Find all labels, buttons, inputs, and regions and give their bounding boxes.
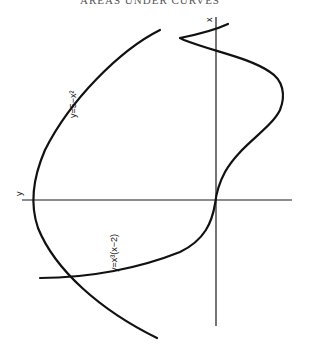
y-axis-label: y xyxy=(14,191,24,196)
graph: y x y=5−x² y=x³(x−2) xyxy=(0,0,309,357)
quartic-curve xyxy=(40,24,283,278)
quartic-label: y=x³(x−2) xyxy=(109,234,119,272)
parabola-label: y=5−x² xyxy=(68,90,78,118)
parabola-curve xyxy=(33,30,160,338)
x-axis-label: x xyxy=(204,17,214,22)
